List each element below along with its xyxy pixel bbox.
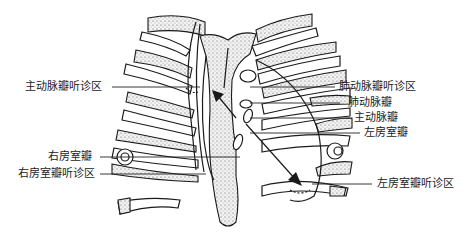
chest-auscultation-diagram: 主动脉瓣听诊区 肺动脉瓣听诊区 肺动脉瓣 主动脉瓣 左房室瓣 右房室瓣 右房室瓣…	[0, 0, 468, 234]
label-aortic-auscultation-area: 主动脉瓣听诊区	[25, 81, 102, 93]
pulmonary-valve-shape	[240, 70, 256, 82]
label-tricuspid-valve: 右房室瓣	[48, 151, 92, 163]
left-ribs	[252, 14, 352, 196]
label-mitral-valve: 左房室瓣	[364, 127, 408, 139]
right-ribs	[112, 16, 205, 214]
sternum	[200, 33, 256, 226]
label-pulmonary-valve: 肺动脉瓣	[348, 97, 392, 109]
label-tricuspid-auscultation-area: 右房室瓣听诊区	[18, 168, 95, 180]
label-pulmonary-auscultation-area: 肺动脉瓣听诊区	[339, 81, 416, 93]
label-aortic-valve: 主动脉瓣	[354, 112, 398, 124]
label-mitral-auscultation-area: 左房室瓣听诊区	[377, 178, 454, 190]
aortic-valve-shape	[240, 100, 252, 108]
mitral-valve-shape	[242, 108, 254, 124]
